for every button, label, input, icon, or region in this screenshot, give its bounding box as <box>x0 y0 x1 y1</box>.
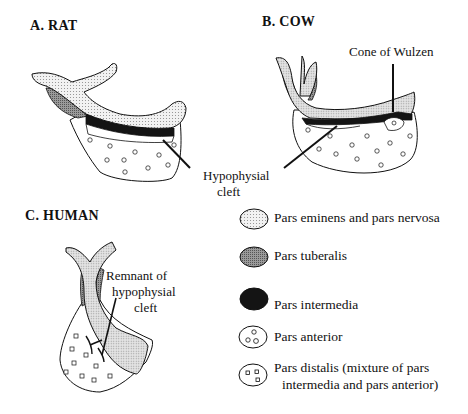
label-remnant-line1: Remnant of <box>106 268 167 284</box>
panel-title-human: C. HUMAN <box>25 208 99 224</box>
label-hypophysial-cleft-line1: Hypophysial <box>203 168 269 184</box>
legend-swatch-nervosa <box>240 209 268 229</box>
legend-swatch-tuberalis <box>240 247 268 267</box>
label-remnant-line2: hypophysial <box>112 284 176 300</box>
legend-label-anterior: Pars anterior <box>274 328 343 345</box>
panel-title-rat: A. RAT <box>30 18 77 34</box>
human-diagram <box>60 242 153 392</box>
rat-diagram <box>32 63 190 181</box>
label-hypophysial-cleft-line2: cleft <box>217 184 240 200</box>
legend-label-distalis-line2: intermedia and pars anterior) <box>282 376 438 393</box>
label-remnant-line3: cleft <box>134 300 157 316</box>
legend-swatches <box>239 209 268 386</box>
cow-diagram <box>276 56 417 173</box>
legend-label-intermedia: Pars intermedia <box>274 296 358 313</box>
legend-label-tuberalis: Pars tuberalis <box>274 247 347 264</box>
label-cone-of-wulzen: Cone of Wulzen <box>349 44 433 60</box>
legend-swatch-distalis <box>239 364 267 386</box>
legend-label-distalis-line1: Pars distalis (mixture of pars <box>274 359 429 376</box>
pituitary-diagram <box>0 0 468 414</box>
legend-swatch-anterior <box>239 326 267 348</box>
panel-title-cow: B. COW <box>262 14 315 30</box>
legend-swatch-intermedia <box>240 288 268 310</box>
legend-label-nervosa: Pars eminens and pars nervosa <box>274 209 440 226</box>
